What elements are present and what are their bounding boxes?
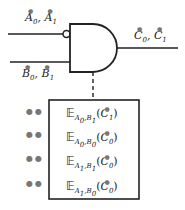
inversion-bubble	[63, 31, 70, 38]
expectation-row-3: 𝔼A1,B1(C0●)	[66, 154, 118, 176]
input-b-label: B0●, B1●	[22, 68, 54, 84]
row-dots-3: ●●	[26, 154, 44, 163]
output-c-label: C0●, C1●	[134, 30, 167, 46]
input-a-label: A0●, A1●	[25, 12, 57, 28]
row-dots-4: ●●	[26, 179, 44, 188]
and-gate-body	[70, 24, 117, 72]
expectation-row-1: 𝔼A0,B1(C1●)	[66, 106, 118, 128]
expectation-row-2: 𝔼A0,B0(C0●)	[66, 130, 118, 152]
row-dots-2: ●●	[26, 130, 44, 139]
row-dots-1: ●●	[26, 107, 44, 116]
expectation-row-4: 𝔼A1,B0(C0●)	[66, 179, 118, 201]
